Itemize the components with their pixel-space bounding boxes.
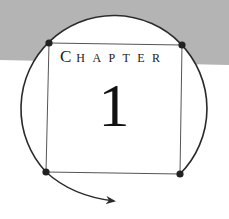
chapter-label-rest: HAPTER [76,51,167,65]
chapter-opener: CHAPTER 1 [0,0,229,219]
corner-dot-bottom-left [42,168,49,175]
corner-dot-top-left [45,39,52,46]
corner-dot-top-right [178,41,185,48]
chapter-label-initial: C [60,47,76,66]
chapter-label: CHAPTER [60,48,172,65]
chapter-number: 1 [94,74,134,136]
corner-dot-bottom-right [176,170,183,177]
arrow-curve [46,172,114,201]
